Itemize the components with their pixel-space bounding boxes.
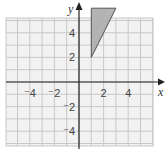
x-tick-label: ⁻4 xyxy=(24,87,36,99)
x-tick-label: ⁻2 xyxy=(48,87,60,99)
y-tick-label: ⁻4 xyxy=(63,125,75,137)
y-tick-label: 4 xyxy=(69,27,75,39)
grid-plot: xy⁻4⁻22442⁻2⁻4 xyxy=(0,0,166,154)
y-tick-label: ⁻2 xyxy=(63,101,75,113)
x-tick-label: 2 xyxy=(101,87,107,99)
y-tick-label: 2 xyxy=(69,51,75,63)
y-axis-label: y xyxy=(67,2,74,16)
x-tick-label: 4 xyxy=(125,87,131,99)
y-axis-arrow-icon xyxy=(76,2,83,10)
coordinate-grid-diagram: xy⁻4⁻22442⁻2⁻4 xyxy=(0,0,166,154)
x-axis-label: x xyxy=(157,85,164,99)
